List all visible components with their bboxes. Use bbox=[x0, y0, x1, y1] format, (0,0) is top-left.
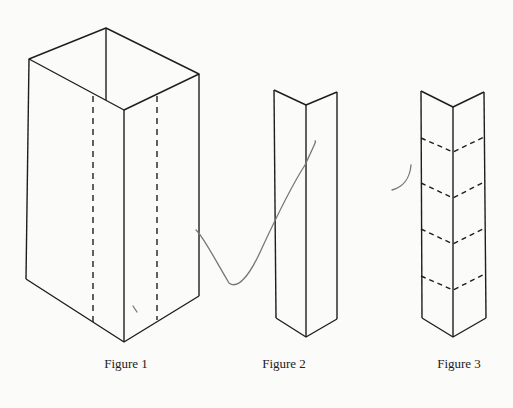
figure-3-label: Figure 3 bbox=[437, 356, 481, 372]
diagram-drawing bbox=[0, 0, 513, 408]
figure-3-strip bbox=[421, 91, 486, 337]
pencil-marks bbox=[133, 141, 411, 312]
figure-1-box bbox=[26, 28, 199, 342]
figure-2-label: Figure 2 bbox=[262, 356, 306, 372]
figure-1-label: Figure 1 bbox=[104, 356, 148, 372]
diagram-canvas: Figure 1 Figure 2 Figure 3 bbox=[0, 0, 513, 408]
figure-2-strip bbox=[274, 90, 337, 337]
